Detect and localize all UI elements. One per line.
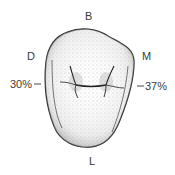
label-mesial: M [142,51,151,62]
distal-percentage: 30% [10,79,32,90]
mesial-percentage: 37% [145,81,167,92]
label-distal: D [27,51,35,62]
label-lingual: L [89,156,95,167]
label-buccal: B [85,11,92,22]
